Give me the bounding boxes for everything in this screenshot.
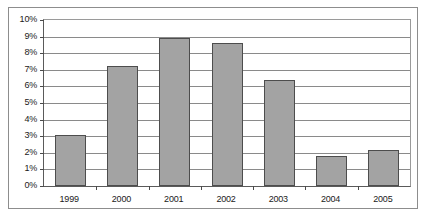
x-axis-label-2004: 2004 <box>321 194 340 204</box>
x-tick-mark <box>305 186 306 190</box>
y-axis-tick-label: 10% <box>3 14 37 24</box>
y-axis-tick-label: 9% <box>3 31 37 41</box>
x-tick-mark <box>149 186 150 190</box>
y-axis-tick-label: 2% <box>3 147 37 157</box>
x-axis-label-1999: 1999 <box>60 194 79 204</box>
y-tick-mark <box>40 53 44 54</box>
y-axis-tick-label: 6% <box>3 80 37 90</box>
x-tick-mark <box>358 186 359 190</box>
y-tick-mark <box>40 169 44 170</box>
x-axis-label-2001: 2001 <box>164 194 183 204</box>
y-tick-mark <box>40 70 44 71</box>
y-tick-mark <box>40 103 44 104</box>
chart-frame: 10%9%8%7%6%5%4%3%2%1%0% 1999200020012002… <box>8 7 418 209</box>
y-axis-tick-label: 3% <box>3 130 37 140</box>
x-tick-mark <box>96 186 97 190</box>
x-axis-label-2005: 2005 <box>373 194 392 204</box>
bar-2005 <box>368 150 399 186</box>
y-axis-tick-label: 7% <box>3 64 37 74</box>
y-tick-mark <box>40 153 44 154</box>
bar-2004 <box>316 156 347 186</box>
y-tick-mark <box>40 186 44 187</box>
bar-1999 <box>55 135 86 186</box>
y-tick-mark <box>40 136 44 137</box>
y-axis-tick-label: 8% <box>3 47 37 57</box>
x-tick-mark <box>253 186 254 190</box>
plot-area <box>43 19 411 187</box>
x-tick-mark <box>201 186 202 190</box>
y-tick-mark <box>40 37 44 38</box>
y-tick-mark <box>40 120 44 121</box>
gridline <box>44 37 410 38</box>
x-axis-label-2002: 2002 <box>216 194 235 204</box>
bar-2001 <box>159 38 190 186</box>
y-tick-mark <box>40 86 44 87</box>
y-axis-tick-label: 5% <box>3 97 37 107</box>
bar-2000 <box>107 66 138 186</box>
y-axis-tick-label: 0% <box>3 180 37 190</box>
bar-2002 <box>212 43 243 186</box>
x-axis-label-2000: 2000 <box>112 194 131 204</box>
x-axis-label-2003: 2003 <box>269 194 288 204</box>
y-axis-tick-label: 1% <box>3 163 37 173</box>
y-axis-tick-label: 4% <box>3 114 37 124</box>
bar-2003 <box>264 80 295 186</box>
y-tick-mark <box>40 20 44 21</box>
